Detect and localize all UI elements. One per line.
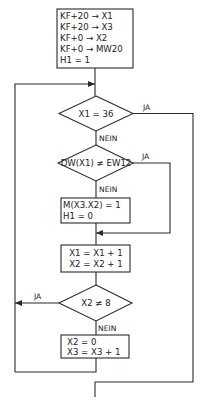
decision2-no-label: NEIN (99, 185, 117, 194)
decision3-no-label: NEIN (98, 324, 116, 333)
flowchart-canvas: KF+20 → X1 KF+20 → X3 KF+0 → X2 KF+0 → M… (0, 0, 207, 406)
action-box1-line-1: M(X3.X2) = 1 (63, 200, 121, 210)
action-box3-line-2: X3 = X3 + 1 (67, 347, 121, 357)
decision2-text: DW(X1) ≠ EW12 (61, 158, 132, 168)
loop-back-arrowhead (88, 81, 95, 87)
decision1-text: X1 = 36 (79, 109, 114, 119)
decision3-text: X2 ≠ 8 (81, 298, 111, 308)
action-box1-line-2: H1 = 0 (63, 211, 93, 221)
box3-to-loop-line (15, 358, 96, 372)
decision3-yes-arrowhead (15, 300, 22, 306)
init-line-3: KF+0 → X2 (60, 33, 107, 43)
decision2-merge-arrowhead (96, 230, 103, 236)
decision1-yes-label: JA (142, 103, 151, 112)
init-line-1: KF+20 → X1 (60, 11, 113, 21)
action-box2-line-1: X1 = X1 + 1 (69, 248, 123, 258)
decision2-yes-label: JA (141, 152, 150, 161)
init-line-2: KF+20 → X3 (60, 22, 113, 32)
action-box3-line-1: X2 = 0 (67, 337, 97, 347)
decision3-yes-label: JA (33, 292, 42, 301)
loop-back-line (15, 84, 95, 372)
init-line-4: KF+0 → MW20 (60, 44, 123, 54)
decision1-no-label: NEIN (99, 134, 117, 143)
action-box2-line-2: X2 = X2 + 1 (69, 259, 123, 269)
init-line-5: H1 = 1 (60, 55, 90, 65)
